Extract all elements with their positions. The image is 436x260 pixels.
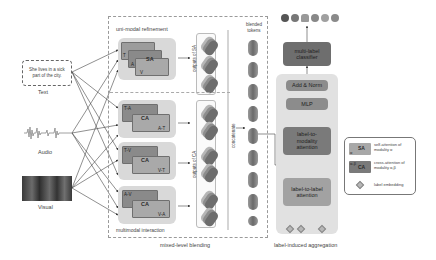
mixed-level-blending-label: mixed-level blending: [160, 242, 210, 248]
visual-frames-image: [22, 176, 72, 201]
sa-a-label: A: [131, 62, 134, 67]
label-to-label-attention-block: label-to-label attention: [283, 178, 331, 206]
emotion-icon-2: [291, 14, 299, 22]
stage-divider: [110, 92, 230, 93]
legend-label-embedding-desc: label embedding: [374, 182, 403, 187]
label-to-modality-attention-block: label-to-modality attention: [283, 127, 331, 155]
blended-token: [248, 62, 258, 78]
blended-token: [248, 150, 258, 166]
ca3-bottom-label: V-A: [158, 212, 165, 217]
outputs-of-ca-label: outputs of CA: [192, 151, 197, 178]
emotion-icon-4: [311, 14, 319, 22]
legend-ca-swatch: CA α-β: [349, 161, 371, 173]
multi-label-classifier-block: multi-label classifier: [283, 42, 331, 66]
audio-caption: Audio: [38, 149, 52, 155]
sa-main-label: SA: [146, 56, 154, 62]
ca3-main-label: CA: [141, 201, 149, 207]
blended-token: [248, 40, 258, 56]
legend-sa-desc: self-attention of modality α: [374, 142, 414, 152]
audio-waveform-icon: [24, 124, 72, 142]
sa-v-label: V: [140, 70, 143, 75]
mlp-block: MLP: [286, 98, 328, 110]
emotion-icon-1: [281, 14, 289, 22]
ca3-top-label: A-V: [124, 192, 132, 197]
blended-token: [248, 84, 258, 100]
add-norm-block: Add & Norm: [286, 80, 328, 91]
ca2-main-label: CA: [141, 157, 149, 163]
blended-token: [248, 216, 258, 226]
ca2-top-label: T-V: [124, 148, 131, 153]
text-input-box: She lives in a sick part of the city.: [22, 60, 72, 86]
legend-ca-desc: cross-attention of modality α,β: [374, 160, 414, 170]
blended-token: [248, 106, 258, 122]
ca1-bottom-label: A-T: [158, 126, 165, 131]
emotion-icon-3: [301, 14, 309, 22]
emotion-icon-6: [331, 14, 339, 22]
outputs-of-sa-label: outputs of SA: [192, 45, 197, 72]
label-induced-aggregation-label: label-induced aggregation: [274, 242, 337, 248]
multimodal-interaction-title: multimodal interaction: [116, 227, 165, 233]
blended-token: [248, 172, 258, 188]
blended-tokens-label: blended tokens: [244, 22, 264, 33]
blended-tokens-column: [248, 40, 258, 232]
ca1-main-label: CA: [141, 115, 149, 121]
blended-token: [248, 194, 258, 210]
ca1-top-label: T-A: [124, 106, 131, 111]
ca2-bottom-label: V-T: [158, 168, 165, 173]
text-sentence: She lives in a sick part of the city.: [25, 67, 69, 79]
sa-t-label: T: [123, 53, 126, 58]
uni-modal-refinement-title: uni-modal refinement: [116, 26, 168, 32]
legend-sa-swatch: SA α: [349, 143, 371, 155]
blended-token: [248, 128, 258, 144]
visual-caption: Visual: [38, 204, 53, 210]
emotion-icon-5: [321, 14, 329, 22]
concatenate-label: concatenate: [231, 123, 236, 148]
text-caption: Text: [38, 89, 48, 95]
